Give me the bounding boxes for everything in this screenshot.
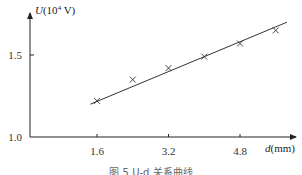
y-tick-label: 1.0 (8, 131, 22, 143)
figure-caption: 图 5 U-d 关系曲线 (0, 164, 302, 175)
fit-line-path (90, 22, 287, 104)
x-tick-label: 1.6 (90, 145, 104, 157)
data-point-marker (201, 54, 207, 60)
y-tick-label: 1.5 (8, 49, 22, 61)
ticks (30, 55, 240, 137)
data-point-marker (166, 65, 172, 71)
data-point-marker (130, 77, 136, 83)
fit-line (90, 22, 287, 104)
data-point-marker (273, 27, 279, 33)
x-tick-label: 4.8 (233, 145, 247, 157)
x-tick-label: 3.2 (162, 145, 176, 157)
chart: 1.63.24.81.01.5 U(104 V) d(mm) (0, 0, 302, 175)
data-points (94, 27, 279, 104)
y-axis-label: U(104 V) (35, 4, 76, 17)
tick-labels: 1.63.24.81.01.5 (8, 49, 247, 157)
x-axis-label: d(mm) (265, 142, 295, 155)
